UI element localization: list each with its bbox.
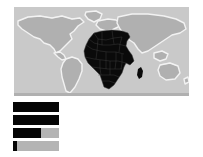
figure-root (0, 0, 203, 157)
landmass-southeast-asia (154, 51, 168, 61)
table-row (13, 115, 59, 125)
horizontal-bar-chart (13, 102, 59, 154)
world-map-panel (14, 7, 189, 96)
table-row (13, 102, 59, 112)
landmass-new-zealand (184, 77, 189, 84)
table-row (13, 128, 59, 138)
bar-fill-4 (13, 141, 17, 151)
table-row (13, 141, 59, 151)
landmass-antarctica-edge (14, 93, 189, 96)
world-map-svg (14, 7, 189, 96)
bar-fill-2 (13, 115, 59, 125)
bar-fill-3 (13, 128, 41, 138)
bar-fill-1 (13, 102, 59, 112)
